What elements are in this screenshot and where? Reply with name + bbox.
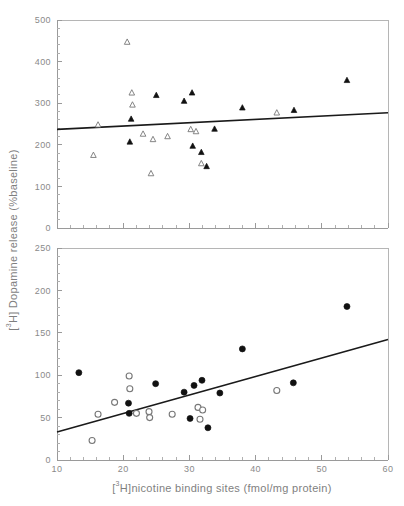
data-point-filled-triangle (128, 116, 134, 121)
plot-frame (57, 20, 388, 228)
data-point-open-triangle (148, 170, 154, 175)
data-point-filled-circle (217, 390, 223, 396)
y-axis-title-main: H] Dopamine release (%baseline) (7, 149, 19, 323)
data-point-filled-triangle (181, 98, 187, 103)
data-point-filled-triangle (240, 105, 246, 110)
y-tick-label: 300 (35, 98, 51, 108)
data-point-filled-circle (187, 415, 193, 421)
y-tick-label: 0 (46, 455, 51, 465)
series-open-triangle (91, 39, 280, 176)
data-point-filled-circle (344, 304, 350, 310)
x-axis-title: [3H]nicotine binding sites (fmol/mg prot… (112, 480, 331, 495)
data-point-open-triangle (129, 90, 135, 95)
data-point-open-triangle (193, 128, 199, 133)
y-tick-label: 500 (35, 15, 51, 25)
data-point-open-triangle (165, 133, 171, 138)
x-tick-label: 30 (184, 464, 195, 474)
data-point-open-circle (169, 411, 175, 417)
x-tick-label: 10 (52, 464, 63, 474)
data-point-filled-circle (205, 425, 211, 431)
data-point-open-circle (274, 387, 280, 393)
x-tick-label: 20 (118, 464, 129, 474)
data-point-filled-circle (125, 400, 131, 406)
data-point-open-circle (133, 410, 139, 416)
data-point-filled-triangle (291, 107, 297, 112)
regression-line (57, 113, 388, 130)
y-tick-label: 200 (35, 286, 51, 296)
data-point-filled-triangle (344, 77, 350, 82)
x-axis-title-main: H]nicotine binding sites (fmol/mg protei… (120, 482, 332, 494)
y-tick-label: 200 (35, 140, 51, 150)
series-open-circle (89, 373, 280, 443)
regression-line (57, 340, 388, 432)
x-tick-label: 50 (316, 464, 327, 474)
data-point-filled-triangle (212, 126, 218, 131)
data-point-filled-circle (76, 370, 82, 376)
data-point-open-circle (95, 411, 101, 417)
data-point-open-circle (126, 373, 132, 379)
y-tick-label: 400 (35, 57, 51, 67)
data-point-open-circle (89, 437, 95, 443)
panel-bottom: 050100150200250102030405060 (35, 243, 394, 474)
data-point-filled-circle (239, 346, 245, 352)
data-point-open-circle (200, 407, 206, 413)
data-point-open-triangle (91, 152, 97, 157)
y-tick-label: 100 (35, 182, 51, 192)
data-point-open-circle (197, 416, 203, 422)
data-point-open-circle (147, 415, 153, 421)
data-point-open-triangle (274, 110, 280, 115)
data-point-filled-circle (191, 382, 197, 388)
data-point-open-triangle (130, 102, 136, 107)
data-point-filled-triangle (190, 143, 196, 148)
data-point-filled-triangle (154, 92, 160, 97)
data-point-open-triangle (140, 131, 146, 136)
data-point-open-triangle (188, 126, 194, 131)
data-point-filled-triangle (189, 90, 195, 95)
data-point-open-circle (127, 386, 133, 392)
data-point-filled-circle (126, 410, 132, 416)
x-tick-label: 60 (383, 464, 394, 474)
x-tick-label: 40 (250, 464, 261, 474)
dual-scatter-plot: 0100200300400500050100150200250102030405… (0, 0, 404, 506)
data-point-open-circle (146, 409, 152, 415)
series-filled-circle (76, 304, 350, 431)
data-point-filled-circle (199, 377, 205, 383)
y-axis-title: [3H] Dopamine release (%baseline) (5, 149, 20, 330)
data-point-open-triangle (95, 122, 101, 127)
data-point-open-circle (112, 399, 118, 405)
data-point-open-triangle (150, 136, 156, 141)
y-tick-label: 50 (40, 413, 51, 423)
data-point-filled-circle (181, 389, 187, 395)
y-tick-label: 0 (46, 223, 51, 233)
data-point-filled-triangle (199, 149, 205, 154)
scatter-figure: 0100200300400500050100150200250102030405… (0, 0, 404, 506)
data-point-filled-triangle (127, 139, 133, 144)
y-tick-label: 100 (35, 370, 51, 380)
y-tick-label: 250 (35, 243, 51, 253)
data-point-open-triangle (199, 160, 205, 165)
data-point-filled-circle (290, 380, 296, 386)
data-point-open-triangle (124, 39, 130, 44)
y-tick-label: 150 (35, 328, 51, 338)
panel-top: 0100200300400500 (35, 15, 388, 233)
data-point-filled-circle (153, 381, 159, 387)
series-filled-triangle (127, 77, 350, 168)
